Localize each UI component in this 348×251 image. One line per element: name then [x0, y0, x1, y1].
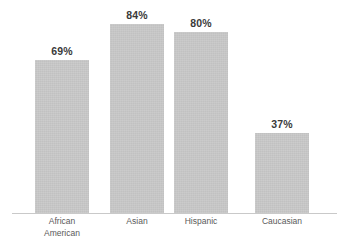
bar-group-4: 37% [255, 133, 309, 213]
category-label-3: Hispanic [174, 216, 228, 228]
bar-group-3: 80% [174, 32, 228, 213]
bar-rect-2[interactable] [110, 24, 164, 213]
category-label-1: African American [35, 216, 89, 239]
bar-group-1: 69% [35, 60, 89, 213]
category-label-1-line-1: African [35, 216, 89, 228]
bar-chart: 69% 84% 80% 37% African American Asian [0, 0, 348, 251]
bar-value-label-3: 80% [174, 17, 228, 29]
bar-rect-3[interactable] [174, 32, 228, 213]
x-axis-line [12, 213, 337, 214]
category-label-3-line-1: Hispanic [174, 216, 228, 228]
category-label-4: Caucasian [255, 216, 309, 228]
bar-rect-4[interactable] [255, 133, 309, 213]
bar-value-label-1: 69% [35, 45, 89, 57]
bar-rect-1[interactable] [35, 60, 89, 213]
category-label-1-line-2: American [35, 228, 89, 240]
bar-value-label-2: 84% [110, 9, 164, 21]
x-axis-category-labels: African American Asian Hispanic Caucasia… [0, 216, 348, 251]
bar-group-2: 84% [110, 24, 164, 213]
category-label-2-line-1: Asian [110, 216, 164, 228]
bar-value-label-4: 37% [255, 118, 309, 130]
category-label-2: Asian [110, 216, 164, 228]
plot-area: 69% 84% 80% 37% [0, 0, 348, 213]
category-label-4-line-1: Caucasian [255, 216, 309, 228]
